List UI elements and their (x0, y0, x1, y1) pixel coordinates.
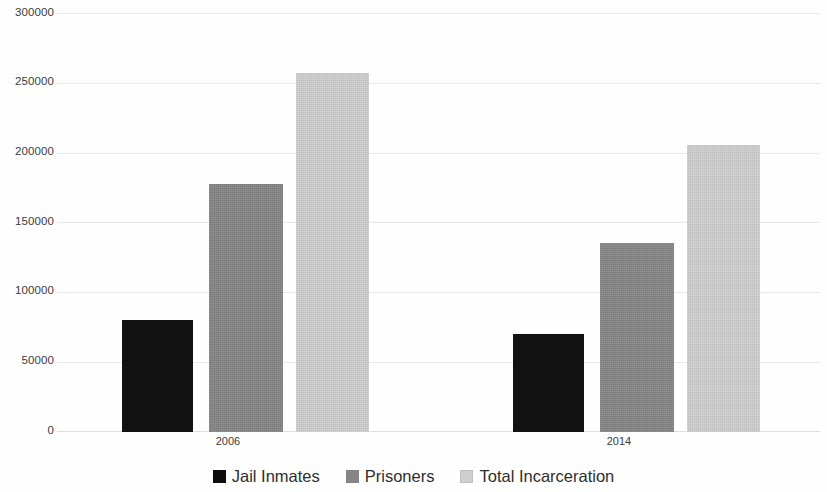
legend-swatch-icon-prisoners (346, 470, 359, 483)
y-tick-label-100000: 100000 (0, 285, 54, 297)
bar-chart-figure: 300000 250000 200000 150000 100000 50000… (0, 0, 827, 492)
y-tick-label-50000: 50000 (0, 355, 54, 367)
y-tick-label-0: 0 (0, 425, 54, 437)
legend-label-total-incarceration: Total Incarceration (479, 468, 614, 485)
plot-area (57, 13, 820, 432)
bar-2006-total-incarceration[interactable] (296, 73, 369, 432)
legend-swatch-icon-jail-inmates (213, 470, 226, 483)
legend-label-prisoners: Prisoners (365, 468, 435, 485)
legend-label-jail-inmates: Jail Inmates (232, 468, 320, 485)
y-tick-label-150000: 150000 (0, 216, 54, 228)
x-tick-label-2014: 2014 (569, 436, 669, 447)
bar-2014-jail-inmates[interactable] (513, 334, 584, 432)
chart-legend: Jail Inmates Prisoners Total Incarcerati… (0, 468, 827, 485)
legend-item-prisoners[interactable]: Prisoners (346, 468, 435, 485)
gridline-300000 (57, 13, 820, 14)
bar-2014-prisoners[interactable] (600, 243, 674, 432)
y-tick-label-300000: 300000 (0, 7, 54, 19)
y-tick-label-250000: 250000 (0, 76, 54, 88)
legend-item-total-incarceration[interactable]: Total Incarceration (460, 468, 614, 485)
x-tick-label-2006: 2006 (178, 436, 278, 447)
bar-2006-jail-inmates[interactable] (122, 320, 193, 432)
bar-2006-prisoners[interactable] (209, 184, 283, 432)
y-axis: 300000 250000 200000 150000 100000 50000… (0, 13, 54, 432)
bar-2014-total-incarceration[interactable] (687, 145, 760, 432)
legend-swatch-icon-total-incarceration (460, 470, 473, 483)
gridline-250000 (57, 83, 820, 84)
legend-item-jail-inmates[interactable]: Jail Inmates (213, 468, 320, 485)
y-tick-label-200000: 200000 (0, 146, 54, 158)
